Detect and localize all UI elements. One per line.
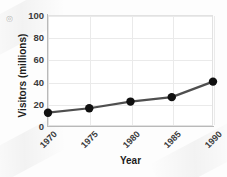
data-point-1975 (85, 104, 93, 112)
x-axis-title: Year (48, 155, 213, 166)
data-point-1980 (126, 97, 134, 105)
data-point-1985 (168, 93, 176, 101)
visitors-line (48, 82, 213, 113)
data-series-layer (0, 0, 227, 177)
y-axis-title: Visitors (millions) (17, 16, 28, 136)
data-point-1990 (209, 77, 217, 85)
line-chart-figure: ◎ 020406080100 19701975198019851990 Visi… (0, 0, 227, 177)
data-point-1970 (44, 108, 52, 116)
